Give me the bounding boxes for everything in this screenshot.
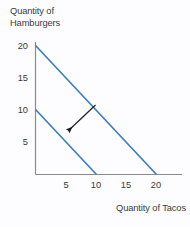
plot-area bbox=[0, 0, 190, 227]
budget-constraint-chart: Quantity of Hamburgers Quantity of Tacos… bbox=[0, 0, 190, 227]
shifted-budget-line bbox=[36, 110, 96, 174]
shift-arrow-icon bbox=[68, 105, 96, 131]
original-budget-line bbox=[36, 46, 156, 174]
